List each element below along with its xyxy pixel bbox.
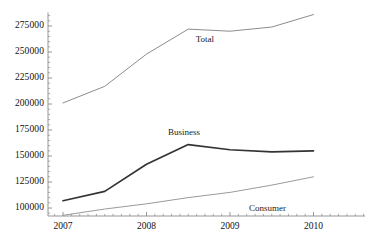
series-line-business <box>63 145 314 201</box>
x-axis-tick-label: 2008 <box>137 222 156 232</box>
y-axis-tick-label: 125000 <box>15 177 44 187</box>
y-axis-tick-label: 150000 <box>15 151 44 161</box>
y-axis-tick-label: 250000 <box>15 47 44 57</box>
y-axis-tick-label: 100000 <box>15 203 44 213</box>
x-axis-tick-label: 2009 <box>221 222 240 232</box>
y-axis-tick-label: 275000 <box>15 21 44 31</box>
line-chart: 1000001250001500001750002000002250002500… <box>0 0 365 242</box>
y-axis-tick-label: 225000 <box>15 73 44 83</box>
y-axis-tick-label: 175000 <box>15 125 44 135</box>
series-label-business: Business <box>168 128 200 137</box>
x-axis-tick-label: 2007 <box>54 222 73 232</box>
chart-plot-area <box>0 0 365 242</box>
series-line-total <box>63 15 314 103</box>
series-label-total: Total <box>196 35 214 44</box>
y-axis-tick-label: 200000 <box>15 99 44 109</box>
x-axis-tick-label: 2010 <box>304 222 323 232</box>
series-label-consumer: Consumer <box>249 204 286 213</box>
